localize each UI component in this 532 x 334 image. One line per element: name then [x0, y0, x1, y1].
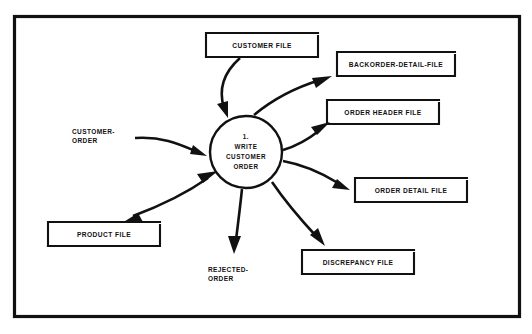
diagram-canvas: CUSTOMER FILE BACKORDER-DETAIL-FILE ORDE… — [0, 0, 532, 334]
flow-discrepancy-write[interactable] — [272, 182, 325, 246]
data-store-label: ORDER DETAIL FILE — [375, 187, 448, 194]
flow-customer-order-in[interactable] — [135, 138, 207, 156]
data-store-label: DISCREPANCY FILE — [323, 259, 394, 266]
flow-label-line-1: CUSTOMER- — [72, 128, 115, 135]
flow-label-customer-order: CUSTOMER- ORDER — [72, 128, 115, 144]
data-store-order-detail-file[interactable]: ORDER DETAIL FILE — [355, 178, 467, 202]
process-circle — [210, 116, 282, 188]
flow-order-header-write[interactable] — [283, 122, 330, 150]
process-write-customer-order[interactable]: 1. WRITE CUSTOMER ORDER — [210, 116, 282, 188]
process-name-line-2: CUSTOMER — [226, 153, 266, 160]
data-store-label: PRODUCT FILE — [77, 231, 131, 238]
flow-order-detail-write[interactable] — [283, 161, 350, 190]
process-name-line-1: WRITE — [235, 143, 258, 150]
data-store-label: ORDER HEADER FILE — [344, 109, 421, 116]
flow-label-line-2: ORDER — [208, 275, 233, 282]
flow-backorder-detail-write[interactable] — [254, 76, 332, 115]
flow-rejected-order-out[interactable] — [228, 189, 242, 254]
flow-label-line-2: ORDER — [72, 137, 97, 144]
arrowhead-icon — [228, 236, 241, 254]
data-store-discrepancy-file[interactable]: DISCREPANCY FILE — [302, 250, 414, 274]
process-name-line-3: ORDER — [233, 163, 258, 170]
data-flow-diagram: CUSTOMER FILE BACKORDER-DETAIL-FILE ORDE… — [0, 0, 532, 334]
flow-customer-file-read[interactable] — [217, 58, 240, 118]
flow-product-file-readwrite[interactable] — [122, 171, 218, 223]
flow-label-line-1: REJECTED- — [208, 266, 248, 273]
process-number: 1. — [243, 133, 249, 140]
arrowhead-icon — [312, 76, 332, 88]
data-store-order-header-file[interactable]: ORDER HEADER FILE — [327, 100, 439, 124]
arrowhead-icon — [190, 145, 207, 156]
data-store-label: CUSTOMER FILE — [232, 42, 292, 49]
flow-label-rejected-order: REJECTED- ORDER — [208, 266, 248, 282]
arrowhead-icon — [311, 122, 330, 135]
arrowhead-icon — [197, 171, 218, 183]
data-store-product-file[interactable]: PRODUCT FILE — [48, 222, 160, 246]
data-store-backorder-detail-file[interactable]: BACKORDER-DETAIL-FILE — [337, 52, 455, 76]
data-store-label: BACKORDER-DETAIL-FILE — [349, 61, 443, 68]
data-store-customer-file[interactable]: CUSTOMER FILE — [206, 33, 318, 57]
arrowhead-icon — [217, 101, 228, 118]
